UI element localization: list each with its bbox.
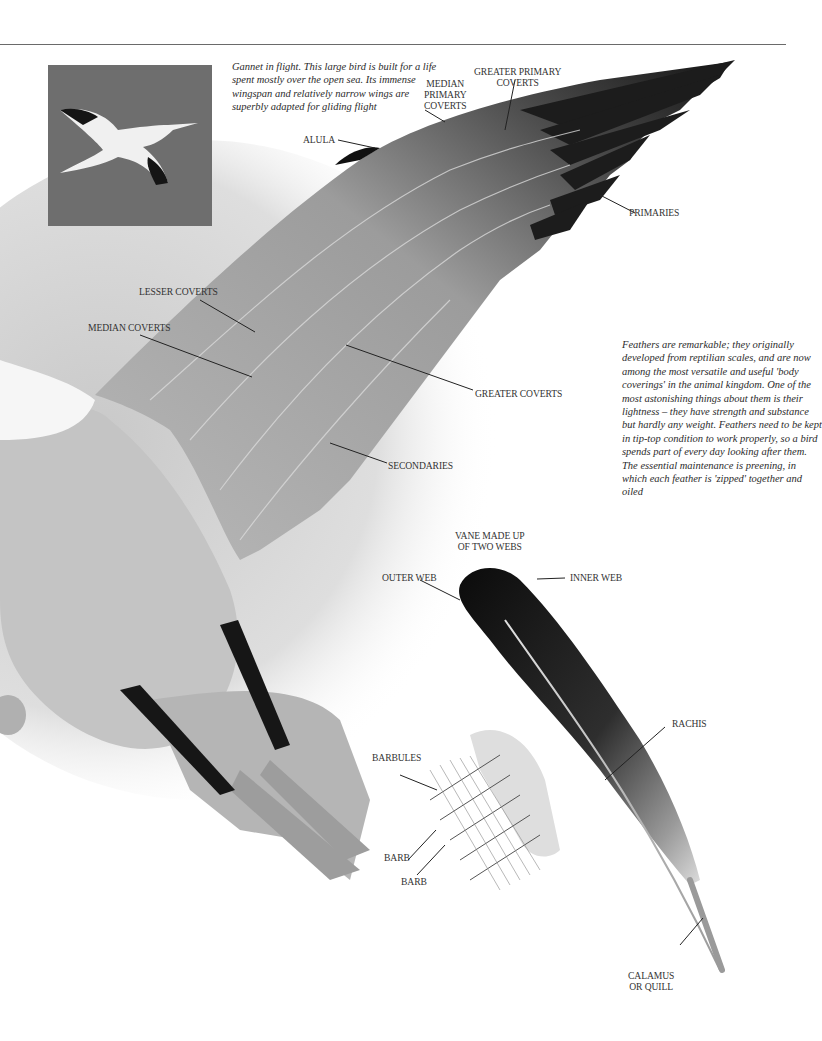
label-barb-2: BARB	[401, 876, 427, 887]
label-median-coverts: MEDIAN COVERTS	[88, 322, 171, 333]
gannet-photo	[48, 65, 212, 226]
label-line: CALAMUS	[628, 970, 674, 981]
label-line: COVERTS	[424, 100, 467, 111]
label-barbules: BARBULES	[372, 752, 421, 763]
label-line: COVERTS	[474, 77, 561, 88]
label-inner-web: INNER WEB	[570, 572, 622, 583]
label-vane: VANE MADE UP OF TWO WEBS	[455, 530, 525, 552]
feathers-description: Feathers are remarkable; they originally…	[622, 338, 822, 499]
photo-caption: Gannet in flight. This large bird is bui…	[232, 60, 442, 114]
label-calamus: CALAMUS OR QUILL	[628, 970, 674, 992]
label-barb-1: BARB	[384, 852, 410, 863]
label-greater-coverts: GREATER COVERTS	[475, 388, 562, 399]
label-alula: ALULA	[303, 134, 335, 145]
label-lesser-coverts: LESSER COVERTS	[139, 286, 218, 297]
label-outer-web: OUTER WEB	[382, 572, 437, 583]
label-line: OR QUILL	[628, 981, 674, 992]
label-line: PRIMARY	[424, 89, 467, 100]
label-greater-primary-coverts: GREATER PRIMARY COVERTS	[474, 66, 561, 88]
label-primaries: PRIMARIES	[629, 207, 679, 218]
label-line: VANE MADE UP	[455, 530, 525, 541]
label-rachis: RACHIS	[672, 718, 707, 729]
label-median-primary-coverts: MEDIAN PRIMARY COVERTS	[424, 78, 467, 111]
label-line: GREATER PRIMARY	[474, 66, 561, 77]
gannet-silhouette-icon	[48, 65, 212, 226]
label-line: OF TWO WEBS	[455, 541, 525, 552]
label-secondaries: SECONDARIES	[388, 460, 453, 471]
label-line: MEDIAN	[424, 78, 467, 89]
